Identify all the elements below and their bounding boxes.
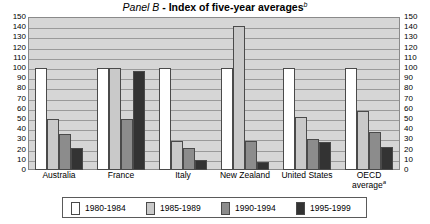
bar (71, 148, 83, 170)
y-axis-left-tick-label: 140 (2, 23, 26, 31)
y-axis-right-tick-label: 10 (404, 156, 428, 164)
bar (369, 132, 381, 170)
y-axis-left-tick-label: 150 (2, 13, 26, 21)
bar (183, 148, 195, 170)
legend-label: 1980-1984 (85, 203, 126, 213)
y-axis-left-tick-label: 130 (2, 33, 26, 41)
y-axis-right-tick-label: 50 (404, 115, 428, 123)
bar (121, 119, 133, 170)
x-axis-tick-label: Australia (28, 171, 90, 181)
y-axis-right-tick-label: 110 (404, 54, 428, 62)
x-axis-tick-label: New Zealand (214, 171, 276, 181)
bar (195, 160, 207, 170)
y-axis-right-tick-label: 100 (404, 64, 428, 72)
chart-title-bold: - Index of five-year averages (159, 1, 303, 13)
y-axis-left-tick-label: 50 (2, 115, 26, 123)
bar (245, 141, 257, 170)
chart-legend: 1980-19841985-19891990-19941995-1999 (62, 197, 367, 218)
bar (35, 68, 47, 170)
legend-item[interactable]: 1995-1999 (296, 201, 351, 215)
legend-label: 1990-1994 (235, 203, 276, 213)
y-axis-left-tick-label: 0 (2, 166, 26, 174)
x-axis-tick-label: United States (276, 171, 338, 181)
y-axis-right-tick-label: 80 (404, 84, 428, 92)
y-axis-right-tick-label: 40 (404, 125, 428, 133)
y-axis-left-tick-label: 100 (2, 64, 26, 72)
bar (345, 68, 357, 170)
bar (59, 134, 71, 170)
x-axis-tick-label: OECDaveragea (338, 171, 400, 190)
chart-title: Panel B - Index of five-year averagesb (0, 1, 430, 13)
x-axis-tick-label: Italy (152, 171, 214, 181)
bar (171, 141, 183, 170)
chart-container: Panel B - Index of five-year averagesb 1… (0, 0, 430, 224)
y-axis-right-tick-label: 0 (404, 166, 428, 174)
bar (159, 68, 171, 170)
y-axis-right-tick-label: 30 (404, 135, 428, 143)
x-axis-label-footnote-marker: a (383, 179, 386, 185)
y-axis-left-tick-label: 110 (2, 54, 26, 62)
bar (357, 111, 369, 170)
legend-item[interactable]: 1985-1989 (146, 201, 201, 215)
legend-label: 1995-1999 (310, 203, 351, 213)
legend-swatch (221, 202, 230, 215)
y-axis-left-tick-label: 10 (2, 156, 26, 164)
x-axis-tick-label: France (90, 171, 152, 181)
y-axis-right-tick-label: 90 (404, 74, 428, 82)
y-axis-right-tick-label: 120 (404, 44, 428, 52)
legend-item[interactable]: 1980-1984 (71, 201, 126, 215)
y-axis-left-tick-label: 120 (2, 44, 26, 52)
y-axis-left-tick-label: 30 (2, 135, 26, 143)
bar (283, 68, 295, 170)
legend-swatch (71, 202, 80, 215)
bar (381, 147, 393, 170)
chart-title-italic: Panel B (123, 1, 160, 13)
y-axis-left-tick-label: 90 (2, 74, 26, 82)
x-axis-categories: AustraliaFranceItalyNew ZealandUnited St… (28, 171, 400, 197)
y-axis-right-tick-label: 150 (404, 13, 428, 21)
bar (295, 117, 307, 170)
bar (47, 119, 59, 170)
bar-group (152, 17, 214, 170)
legend-swatch (296, 202, 305, 215)
legend-swatch (146, 202, 155, 215)
y-axis-left-tick-label: 40 (2, 125, 26, 133)
bar (109, 68, 121, 170)
y-axis-right-tick-label: 60 (404, 105, 428, 113)
bar-group (276, 17, 338, 170)
bar (307, 139, 319, 170)
y-axis-right-tick-label: 140 (404, 23, 428, 31)
y-axis-right-tick-label: 20 (404, 146, 428, 154)
bar-group (90, 17, 152, 170)
bar-group (214, 17, 276, 170)
y-axis-left-tick-label: 80 (2, 84, 26, 92)
bar (319, 142, 331, 170)
legend-item[interactable]: 1990-1994 (221, 201, 276, 215)
legend-label: 1985-1989 (160, 203, 201, 213)
bar-group (28, 17, 90, 170)
y-axis-right-tick-label: 70 (404, 95, 428, 103)
y-axis-right-tick-label: 130 (404, 33, 428, 41)
y-axis-left-tick-label: 60 (2, 105, 26, 113)
bar (233, 26, 245, 170)
bar (221, 68, 233, 170)
bar (97, 68, 109, 170)
y-axis-left-tick-label: 70 (2, 95, 26, 103)
y-axis-left-tick-label: 20 (2, 146, 26, 154)
bar-group (338, 17, 400, 170)
chart-title-footnote-marker: b (304, 1, 308, 8)
bar (133, 71, 145, 170)
bar-groups (28, 17, 400, 170)
bar (257, 162, 269, 170)
